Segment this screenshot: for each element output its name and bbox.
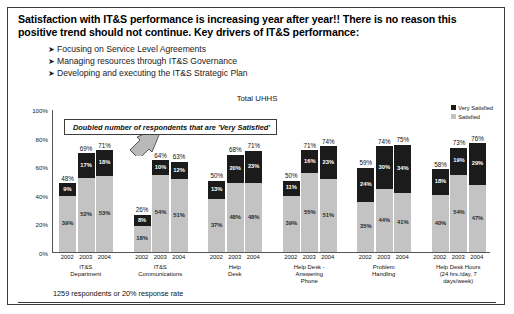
x-axis-year-row: 200220032004 xyxy=(133,254,189,260)
bar-segment-very-satisfied[interactable]: 29% xyxy=(469,143,486,184)
bullet-item: ➤Managing resources through IT&S Governa… xyxy=(48,56,468,67)
bar-segment-satisfied[interactable]: 35% xyxy=(357,202,374,252)
x-axis-year-label: 2004 xyxy=(468,254,485,260)
bar-segment-very-satisfied[interactable]: 19% xyxy=(450,148,467,175)
bar-segment-satisfied[interactable]: 51% xyxy=(320,179,337,252)
x-axis-year-label: 2004 xyxy=(319,254,336,260)
x-axis-year-row: 200220032004 xyxy=(207,254,263,260)
x-axis-year-row: 200220032004 xyxy=(356,254,412,260)
bar-segment-very-satisfied[interactable]: 34% xyxy=(394,145,411,194)
bar-segment-satisfied[interactable]: 44% xyxy=(376,189,393,252)
bar-segment-very-satisfied[interactable]: 13% xyxy=(208,181,225,200)
category-line: Handling xyxy=(356,271,412,278)
x-axis-year-label: 2004 xyxy=(96,254,113,260)
stacked-bar[interactable]: 50%11%39% xyxy=(283,110,300,252)
stacked-bar[interactable]: 74%23%51% xyxy=(320,110,337,252)
segment-value-label: 34% xyxy=(397,166,409,172)
bar-segment-very-satisfied[interactable]: 9% xyxy=(59,183,76,196)
bar-segment-very-satisfied[interactable]: 8% xyxy=(134,215,151,226)
segment-value-label: 51% xyxy=(173,213,185,219)
category-line: (24 hrs./day, 7 xyxy=(431,271,487,278)
bar-segment-satisfied[interactable]: 52% xyxy=(78,178,95,252)
bar-segment-very-satisfied[interactable]: 30% xyxy=(376,146,393,189)
segment-value-label: 53% xyxy=(99,211,111,217)
segment-value-label: 44% xyxy=(379,218,391,224)
segment-value-label: 9% xyxy=(63,187,71,193)
bar-segment-satisfied[interactable]: 18% xyxy=(134,226,151,252)
category-line: Communications xyxy=(133,271,189,278)
bar-segment-very-satisfied[interactable]: 23% xyxy=(245,151,262,184)
bar-segment-satisfied[interactable]: 48% xyxy=(245,183,262,252)
bar-segment-satisfied[interactable]: 55% xyxy=(301,173,318,252)
x-axis-group: 200220032004ProblemHandling xyxy=(356,254,412,286)
bar-segment-satisfied[interactable]: 54% xyxy=(450,175,467,252)
chart-title: Total UHHS xyxy=(0,94,514,103)
stacked-bar[interactable]: 74%30%44% xyxy=(376,110,393,252)
segment-value-label: 51% xyxy=(322,213,334,219)
bar-segment-satisfied[interactable]: 54% xyxy=(152,175,169,252)
bar-segment-very-satisfied[interactable]: 10% xyxy=(152,160,169,174)
bar-total-label: 74% xyxy=(378,138,391,145)
category-line: IT&S xyxy=(133,264,189,271)
x-axis-group: 200220032004HelpDesk xyxy=(207,254,263,286)
stacked-bar[interactable]: 59%24%35% xyxy=(357,110,374,252)
x-axis-category-label: Help Desk Hours(24 hrs./day, 7days/week) xyxy=(431,264,487,286)
bar-total-label: 50% xyxy=(285,172,298,179)
bar-total-label: 50% xyxy=(210,172,223,179)
bar-segment-very-satisfied[interactable]: 24% xyxy=(357,168,374,202)
y-axis-tick-label: 20% xyxy=(36,221,48,228)
bullet-arrow-icon: ➤ xyxy=(48,56,57,67)
category-line: Help Desk Hours xyxy=(431,264,487,271)
bar-segment-satisfied[interactable]: 53% xyxy=(96,176,113,252)
x-axis-year-label: 2002 xyxy=(357,254,374,260)
bar-segment-satisfied[interactable]: 51% xyxy=(171,179,188,252)
segment-value-label: 30% xyxy=(379,165,391,171)
stacked-bar[interactable]: 76%29%47% xyxy=(469,110,486,252)
segment-value-label: 35% xyxy=(360,224,372,230)
segment-value-label: 16% xyxy=(304,159,316,165)
bar-segment-satisfied[interactable]: 39% xyxy=(283,196,300,252)
bar-segment-very-satisfied[interactable]: 18% xyxy=(432,169,449,195)
segment-value-label: 8% xyxy=(138,218,146,224)
bar-segment-satisfied[interactable]: 41% xyxy=(394,193,411,252)
bar-segment-very-satisfied[interactable]: 17% xyxy=(78,153,95,177)
bar-segment-satisfied[interactable]: 48% xyxy=(227,183,244,252)
segment-value-label: 37% xyxy=(211,223,223,229)
segment-value-label: 12% xyxy=(173,168,185,174)
bar-segment-very-satisfied[interactable]: 11% xyxy=(283,181,300,197)
x-axis-year-label: 2002 xyxy=(133,254,150,260)
x-axis-year-label: 2003 xyxy=(226,254,243,260)
bar-segment-very-satisfied[interactable]: 16% xyxy=(301,150,318,173)
category-line: IT&S xyxy=(58,264,114,271)
bar-segment-satisfied[interactable]: 40% xyxy=(432,195,449,252)
bar-segment-very-satisfied[interactable]: 23% xyxy=(320,146,337,179)
segment-value-label: 54% xyxy=(155,210,167,216)
x-axis-year-row: 200220032004 xyxy=(282,254,338,260)
page-title: Satisfaction with IT&S performance is in… xyxy=(18,13,496,39)
category-line: days/week) xyxy=(431,278,487,285)
y-axis-tick-label: 60% xyxy=(36,164,48,171)
bar-total-label: 48% xyxy=(61,175,74,182)
segment-value-label: 24% xyxy=(360,182,372,188)
stacked-bar[interactable]: 58%18%40% xyxy=(432,110,449,252)
bar-segment-very-satisfied[interactable]: 12% xyxy=(171,162,188,179)
x-axis-labels: 200220032004IT&SDepartment200220032004IT… xyxy=(52,254,490,294)
bar-segment-satisfied[interactable]: 47% xyxy=(469,185,486,252)
bar-group: 59%24%35%74%30%44%75%34%41% xyxy=(357,110,411,252)
category-line: Phone xyxy=(282,278,338,285)
stacked-bar[interactable]: 75%34%41% xyxy=(394,110,411,252)
stacked-bar[interactable]: 71%16%55% xyxy=(301,110,318,252)
segment-value-label: 11% xyxy=(286,185,297,191)
x-axis-year-label: 2003 xyxy=(301,254,318,260)
bar-segment-very-satisfied[interactable]: 20% xyxy=(227,155,244,184)
bullet-text: Developing and executing the IT&S Strate… xyxy=(57,68,248,79)
bar-segment-satisfied[interactable]: 37% xyxy=(208,199,225,252)
x-axis-group-row: 200220032004IT&SDepartment200220032004IT… xyxy=(52,254,490,286)
y-axis-tick-label: 100% xyxy=(32,107,48,114)
bar-segment-satisfied[interactable]: 39% xyxy=(59,196,76,252)
category-line: Help Desk - xyxy=(282,264,338,271)
bar-segment-very-satisfied[interactable]: 18% xyxy=(96,150,113,176)
x-axis-year-label: 2002 xyxy=(208,254,225,260)
slide-canvas: Satisfaction with IT&S performance is in… xyxy=(0,0,514,314)
stacked-bar[interactable]: 73%19%54% xyxy=(450,110,467,252)
